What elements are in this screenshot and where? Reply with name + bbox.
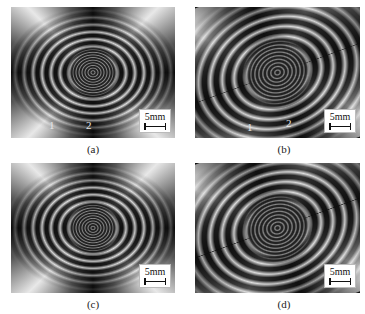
scale-bar-label: 5mm bbox=[325, 111, 355, 122]
point-label-2: 2 bbox=[86, 119, 92, 131]
fringe-panel-c: 5mm bbox=[11, 163, 175, 293]
scale-bar: 5mm bbox=[139, 109, 171, 133]
point-label-2: 2 bbox=[286, 117, 292, 129]
scale-bar-line bbox=[329, 126, 351, 128]
scale-bar: 5mm bbox=[139, 264, 171, 288]
scale-bar-line bbox=[329, 281, 351, 283]
scale-bar-line bbox=[144, 126, 166, 128]
scale-bar-label: 5mm bbox=[140, 111, 170, 122]
point-label-1: 1 bbox=[49, 119, 55, 131]
point-label-1: 1 bbox=[247, 121, 253, 133]
scale-bar: 5mm bbox=[324, 264, 356, 288]
scale-bar-line bbox=[144, 281, 166, 283]
scale-bar: 5mm bbox=[324, 109, 356, 133]
fringe-panel-a: 1 2 5mm bbox=[11, 7, 175, 138]
panel-caption-d: (d) bbox=[269, 298, 299, 310]
fringe-panel-d: 5mm bbox=[195, 163, 360, 293]
panel-caption-b: (b) bbox=[269, 143, 299, 155]
fringe-panel-b: 1 2 5mm bbox=[195, 7, 360, 138]
panel-caption-c: (c) bbox=[78, 298, 108, 310]
scale-bar-label: 5mm bbox=[325, 266, 355, 277]
scale-bar-label: 5mm bbox=[140, 266, 170, 277]
panel-caption-a: (a) bbox=[78, 143, 108, 155]
